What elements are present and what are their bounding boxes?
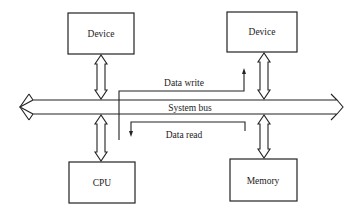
device-left-box: Device — [68, 13, 134, 54]
cpu-label: CPU — [93, 178, 112, 188]
device-left-bus-arrow — [95, 55, 107, 99]
cpu-bus-arrow — [95, 115, 107, 161]
cpu-box: CPU — [69, 162, 135, 203]
device-right-label: Device — [249, 27, 276, 37]
data-write-label: Data write — [164, 78, 204, 88]
data-read-label: Data read — [166, 130, 203, 140]
data-read-arrow: Data read — [129, 122, 245, 140]
bus-diagram: Device Device CPU Memory System bus Data… — [0, 0, 362, 215]
device-left-label: Device — [88, 29, 115, 39]
device-right-box: Device — [227, 12, 297, 52]
memory-label: Memory — [247, 176, 280, 186]
memory-box: Memory — [230, 159, 297, 201]
device-right-bus-arrow — [258, 53, 270, 99]
memory-bus-arrow — [258, 115, 270, 158]
system-bus-arrow: System bus — [20, 94, 343, 120]
system-bus-label: System bus — [168, 103, 212, 113]
